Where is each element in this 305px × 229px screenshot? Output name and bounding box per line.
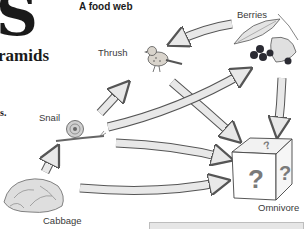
info-box-edge (149, 222, 304, 229)
arrow-snail-to-omnivore (116, 143, 225, 158)
diagram-title: A food web (79, 1, 133, 12)
question-mark-side-icon: ? (279, 162, 291, 184)
arrow-cabbage-to-omnivore (80, 182, 222, 190)
berries-icon (234, 14, 298, 65)
bird-icon (144, 47, 182, 73)
arrow-cabbage-to-snail (45, 152, 55, 172)
mystery-box-icon: ? ? ? (232, 138, 292, 200)
arrow-berries-to-omnivore (278, 78, 282, 130)
snail-icon (56, 121, 106, 142)
label-cabbage: Cabbage (43, 215, 82, 226)
label-snail: Snail (39, 112, 60, 123)
label-omnivore: Omnivore (258, 202, 299, 213)
arrow-berries-to-thrush (175, 24, 232, 42)
arrow-snail-to-thrush (100, 87, 124, 113)
cabbage-icon (4, 179, 63, 213)
textbook-page: S ramids s. (0, 0, 305, 229)
question-mark-front-icon: ? (248, 164, 264, 194)
label-berries: Berries (237, 9, 267, 20)
label-thrush: Thrush (98, 47, 128, 58)
